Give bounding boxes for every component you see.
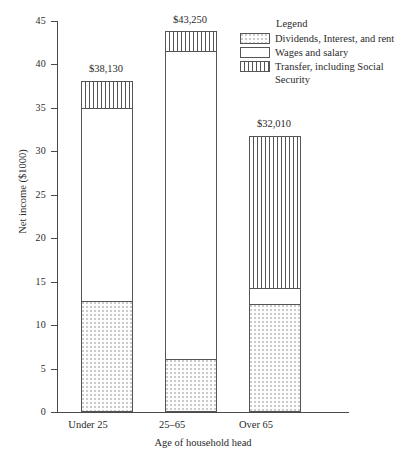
x-category-label-over-65: Over 65 <box>211 419 301 430</box>
y-tick-30 <box>51 151 57 152</box>
x-axis-line <box>57 412 349 413</box>
bar-segment-dividends-over-65 <box>249 304 301 412</box>
y-tick-15 <box>51 282 57 283</box>
legend-swatch-transfer-icon <box>240 61 270 72</box>
y-axis-line <box>57 21 58 413</box>
stacked-bar-chart: 45 40 35 30 25 20 15 10 5 0 Net income (… <box>0 0 409 455</box>
bar-segment-dividends-under-25 <box>81 301 133 412</box>
legend-item-transfer: Transfer, including Social Security <box>240 60 408 86</box>
y-tick-label-15: 15 <box>6 277 46 287</box>
legend-swatch-dividends-icon <box>240 33 270 44</box>
bar-segment-wages-under-25 <box>81 108 133 302</box>
legend-label-transfer: Transfer, including Social Security <box>275 60 405 86</box>
y-tick-label-45: 45 <box>6 16 46 26</box>
y-tick-5 <box>51 369 57 370</box>
y-tick-0 <box>51 412 57 413</box>
y-tick-label-0: 0 <box>6 407 46 417</box>
y-tick-45 <box>51 21 57 22</box>
y-tick-20 <box>51 238 57 239</box>
y-tick-label-10: 10 <box>6 320 46 330</box>
legend: Legend Dividends, Interest, and rent Wag… <box>240 18 408 87</box>
bar-segment-dividends-25-65 <box>165 359 217 412</box>
x-axis-title: Age of household head <box>57 437 349 448</box>
y-axis-title: Net income ($1000) <box>17 122 28 262</box>
legend-swatch-wages-icon <box>240 47 270 58</box>
y-tick-40 <box>51 64 57 65</box>
y-tick-25 <box>51 195 57 196</box>
bar-segment-transfer-over-65 <box>249 136 301 289</box>
bar-total-label-25-65: $43,250 <box>145 14 235 25</box>
bar-segment-wages-25-65 <box>165 51 217 360</box>
y-tick-35 <box>51 108 57 109</box>
legend-item-wages: Wages and salary <box>240 46 408 59</box>
bar-total-label-under-25: $38,130 <box>61 63 151 74</box>
bar-segment-transfer-25-65 <box>165 31 217 52</box>
y-tick-10 <box>51 325 57 326</box>
legend-item-dividends: Dividends, Interest, and rent <box>240 32 408 45</box>
bar-25-65 <box>165 31 217 412</box>
y-tick-label-35: 35 <box>6 103 46 113</box>
y-tick-label-40: 40 <box>6 59 46 69</box>
legend-title: Legend <box>276 18 408 29</box>
bar-total-label-over-65: $32,010 <box>229 118 319 129</box>
bar-segment-transfer-under-25 <box>81 81 133 109</box>
y-tick-label-5: 5 <box>6 364 46 374</box>
bar-over-65 <box>249 136 301 412</box>
legend-label-wages: Wages and salary <box>275 46 348 59</box>
x-category-label-under-25: Under 25 <box>43 419 133 430</box>
x-category-label-25-65: 25–65 <box>127 419 217 430</box>
bar-under-25 <box>81 81 133 412</box>
bar-segment-wages-over-65 <box>249 288 301 305</box>
legend-label-dividends: Dividends, Interest, and rent <box>275 32 394 45</box>
